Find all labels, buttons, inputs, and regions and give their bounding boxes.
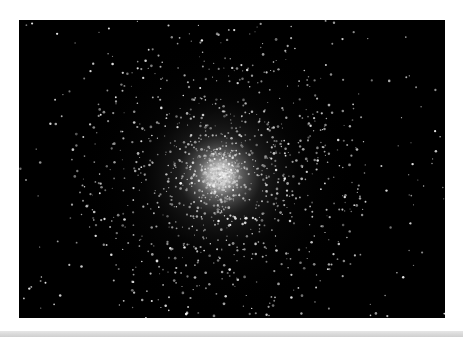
bottom-bar	[0, 331, 463, 337]
stars-field	[19, 20, 445, 318]
star-cluster-photo	[19, 20, 445, 318]
